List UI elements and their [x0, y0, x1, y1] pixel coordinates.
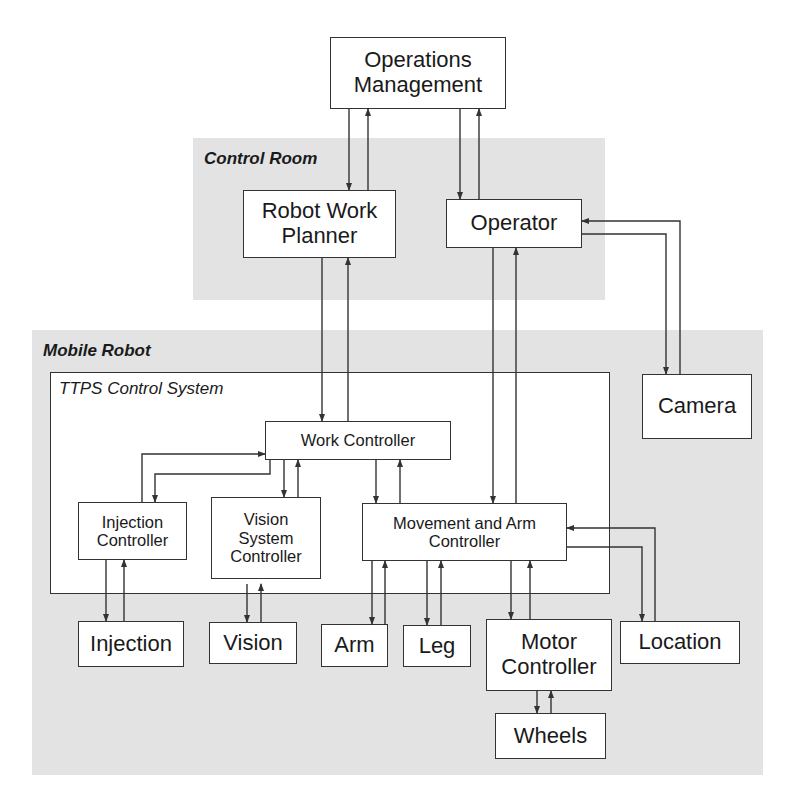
connector-lines [0, 0, 799, 806]
